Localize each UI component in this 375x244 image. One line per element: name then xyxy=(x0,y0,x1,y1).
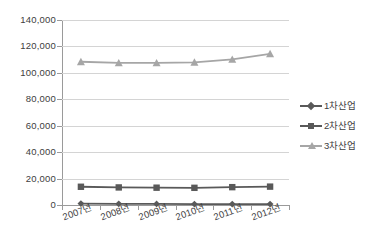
gridline xyxy=(62,179,289,180)
y-axis-tick xyxy=(57,126,62,127)
legend-key-marker xyxy=(307,102,315,110)
y-axis-tick-label: 20,000 xyxy=(0,174,56,184)
chart-legend: 1차산업2차산업3차산업 xyxy=(300,96,375,156)
y-axis-tick-label: 140,000 xyxy=(0,15,56,25)
y-axis-tick xyxy=(57,152,62,153)
legend-item-label: 1차산업 xyxy=(324,100,356,112)
legend-item-2[interactable]: 2차산업 xyxy=(300,116,375,136)
legend-key-diamond-icon xyxy=(300,100,322,112)
gridline xyxy=(62,99,289,100)
y-axis-tick-label: 40,000 xyxy=(0,147,56,157)
y-axis-tick xyxy=(57,99,62,100)
y-axis-labels: 020,00040,00060,00080,000100,000120,0001… xyxy=(0,20,56,205)
legend-item-3[interactable]: 3차산업 xyxy=(300,136,375,156)
x-axis-tick xyxy=(289,205,290,210)
x-axis-tick xyxy=(138,205,139,210)
x-axis-tick xyxy=(62,205,63,210)
line-chart: 020,00040,00060,00080,000100,000120,0001… xyxy=(0,0,375,244)
y-axis-tick-label: 100,000 xyxy=(0,68,56,78)
y-axis-tick xyxy=(57,179,62,180)
legend-item-label: 3차산업 xyxy=(324,140,356,152)
y-axis-tick-label: 80,000 xyxy=(0,94,56,104)
y-axis-tick-label: 60,000 xyxy=(0,121,56,131)
x-axis-tick xyxy=(251,205,252,210)
gridline xyxy=(62,46,289,47)
x-axis-tick xyxy=(213,205,214,210)
y-axis-tick xyxy=(57,46,62,47)
legend-key-marker xyxy=(308,123,314,129)
x-axis-tick xyxy=(100,205,101,210)
gridline xyxy=(62,73,289,74)
gridline xyxy=(62,20,289,21)
legend-key-square-icon xyxy=(300,120,322,132)
plot-area xyxy=(62,20,289,205)
y-axis-tick xyxy=(57,73,62,74)
legend-item-label: 2차산업 xyxy=(324,120,356,132)
gridline xyxy=(62,152,289,153)
legend-key-triangle-icon xyxy=(300,140,322,152)
x-axis-tick xyxy=(176,205,177,210)
y-axis-tick xyxy=(57,20,62,21)
y-axis-tick xyxy=(57,205,62,206)
gridline xyxy=(62,126,289,127)
y-axis-tick-label: 120,000 xyxy=(0,41,56,51)
legend-item-1[interactable]: 1차산업 xyxy=(300,96,375,116)
legend-key-marker xyxy=(308,142,316,149)
y-axis-tick-label: 0 xyxy=(0,200,56,210)
